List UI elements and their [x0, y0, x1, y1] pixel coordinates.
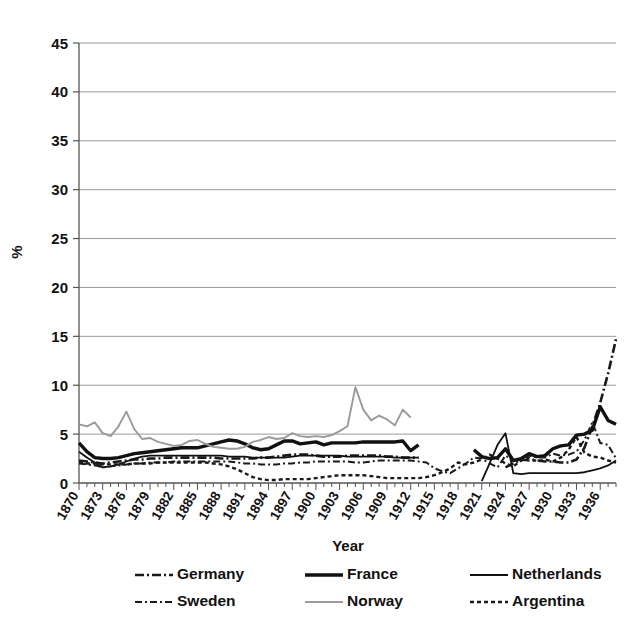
legend-label-argentina[interactable]: Argentina	[512, 592, 585, 609]
line-chart: 051015202530354045 187018731876187918821…	[0, 0, 640, 633]
chart-container: 051015202530354045 187018731876187918821…	[0, 0, 640, 633]
y-axis-title: %	[8, 245, 25, 258]
legend-label-norway[interactable]: Norway	[347, 592, 403, 609]
legend-label-sweden[interactable]: Sweden	[177, 592, 236, 609]
legend-label-france[interactable]: France	[347, 565, 398, 582]
y-tick-label: 30	[51, 181, 68, 198]
y-tick-label: 15	[51, 328, 68, 345]
x-axis-title: Year	[332, 537, 364, 554]
legend-label-germany[interactable]: Germany	[177, 565, 245, 582]
y-tick-label: 20	[51, 279, 68, 296]
y-tick-label: 5	[60, 426, 68, 443]
y-tick-label: 25	[51, 230, 68, 247]
chart-background	[0, 0, 640, 633]
y-tick-label: 40	[51, 83, 68, 100]
legend-label-netherlands[interactable]: Netherlands	[512, 565, 602, 582]
y-tick-label: 10	[51, 377, 68, 394]
y-tick-label: 0	[60, 475, 68, 492]
y-tick-label: 35	[51, 132, 68, 149]
y-tick-label: 45	[51, 35, 68, 52]
